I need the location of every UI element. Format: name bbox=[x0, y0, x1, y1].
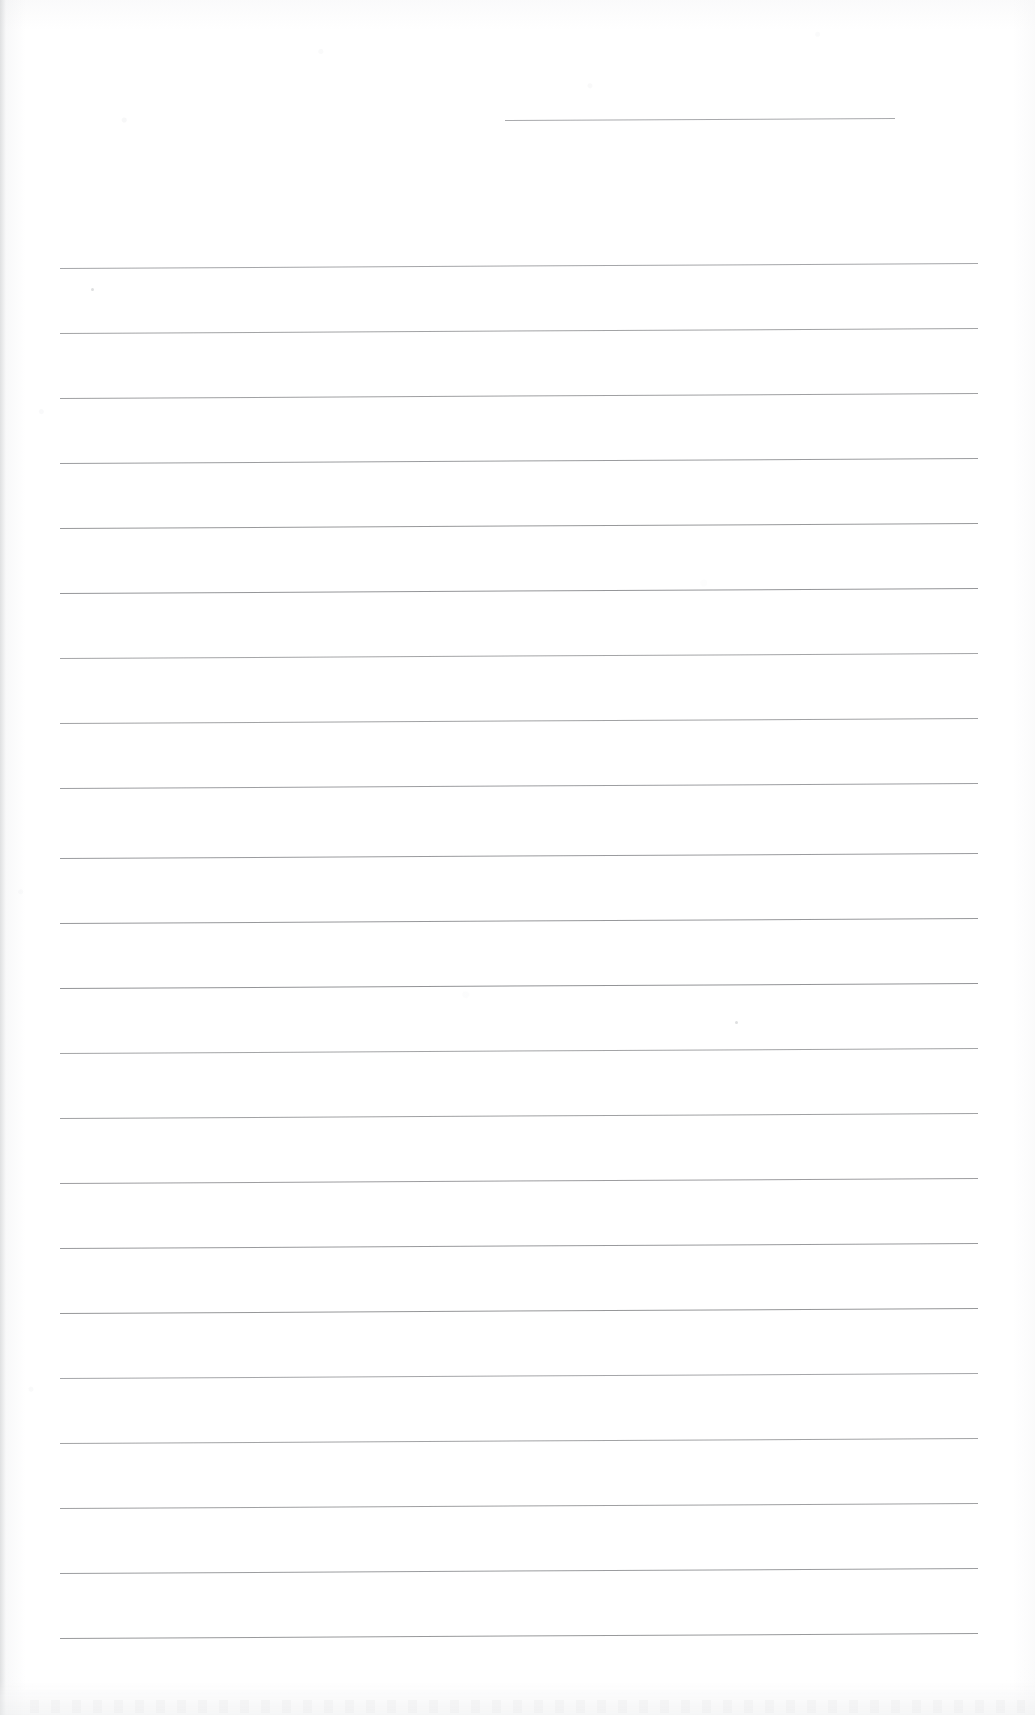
ruled-line bbox=[60, 1568, 978, 1574]
ruled-line bbox=[60, 918, 978, 924]
scan-speck bbox=[91, 288, 94, 291]
ruled-line bbox=[60, 653, 978, 659]
scan-speck bbox=[735, 1021, 738, 1024]
ruled-line bbox=[60, 1438, 978, 1444]
ruled-line bbox=[60, 1243, 978, 1249]
ruled-line bbox=[60, 718, 978, 724]
ruled-line bbox=[60, 328, 978, 334]
bottom-edge-smudge bbox=[0, 1681, 1035, 1715]
ruled-line bbox=[60, 983, 978, 989]
ruled-line bbox=[60, 853, 978, 859]
ruled-line bbox=[60, 1373, 978, 1379]
ruled-line bbox=[60, 1178, 978, 1184]
ruled-line bbox=[60, 1503, 978, 1509]
ruled-line bbox=[60, 263, 978, 269]
ruled-line bbox=[60, 783, 978, 789]
partial-ruled-line bbox=[505, 118, 895, 121]
ruled-line bbox=[60, 588, 978, 594]
scanned-page bbox=[0, 0, 1035, 1715]
ruled-line bbox=[60, 1308, 978, 1314]
ruled-line bbox=[60, 393, 978, 399]
ruled-line bbox=[60, 1048, 978, 1054]
ruled-line bbox=[60, 523, 978, 529]
ruled-line bbox=[60, 1633, 978, 1639]
ruled-line bbox=[60, 1113, 978, 1119]
ruled-line bbox=[60, 458, 978, 464]
